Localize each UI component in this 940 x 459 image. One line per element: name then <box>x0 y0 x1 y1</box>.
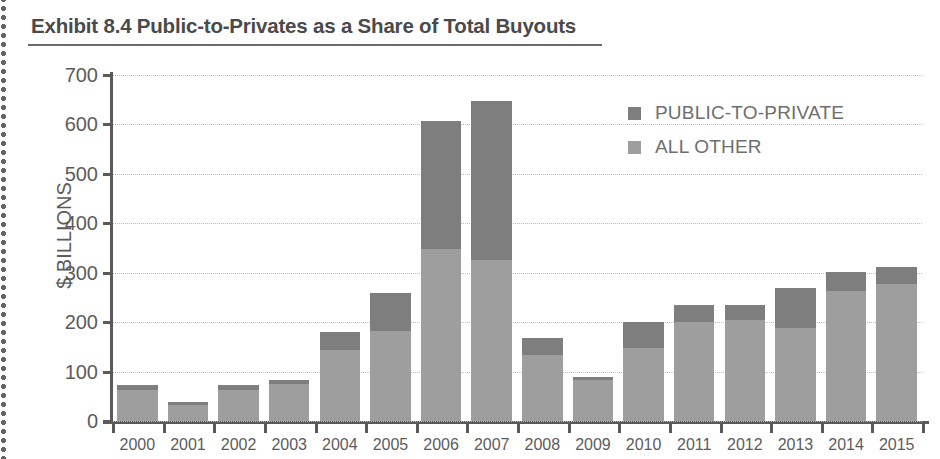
legend-label: PUBLIC-TO-PRIVATE <box>655 102 844 124</box>
bar-segment-public-to-private[interactable] <box>725 305 766 320</box>
y-tick-label: 100 <box>36 362 98 382</box>
bar-segment-all-other[interactable] <box>320 350 361 421</box>
bar-segment-all-other[interactable] <box>218 390 259 421</box>
y-tick-label: 200 <box>36 312 98 332</box>
y-tick-mark <box>103 222 113 225</box>
bar-segment-public-to-private[interactable] <box>522 338 563 354</box>
bar-segment-all-other[interactable] <box>775 328 816 421</box>
legend-entry[interactable]: ALL OTHER <box>628 130 898 164</box>
x-tick-mark <box>720 424 723 433</box>
bar-stack[interactable] <box>623 322 664 421</box>
x-tick-mark <box>315 424 318 433</box>
bar-stack[interactable] <box>725 305 766 421</box>
bar-stack[interactable] <box>471 101 512 421</box>
bar-segment-public-to-private[interactable] <box>826 272 867 291</box>
bar-segment-public-to-private[interactable] <box>573 377 614 381</box>
bar-stack[interactable] <box>876 267 917 421</box>
bar-stack[interactable] <box>826 272 867 421</box>
x-tick-mark <box>264 424 267 433</box>
y-tick-mark <box>103 371 113 374</box>
y-tick-label: 500 <box>36 164 98 184</box>
bar-stack[interactable] <box>218 385 259 421</box>
x-tick-mark <box>770 424 773 433</box>
title-underline <box>28 44 602 46</box>
bar-segment-all-other[interactable] <box>623 348 664 421</box>
legend-swatch-icon <box>628 141 641 154</box>
x-tick-mark <box>922 424 925 433</box>
bar-segment-public-to-private[interactable] <box>218 385 259 389</box>
x-tick-mark <box>618 424 621 433</box>
x-tick-mark <box>365 424 368 433</box>
y-tick-label: 0 <box>36 411 98 431</box>
bar-stack[interactable] <box>421 120 462 421</box>
gridline <box>112 421 922 422</box>
x-tick-mark <box>163 424 166 433</box>
bar-stack[interactable] <box>573 377 614 421</box>
bar-stack[interactable] <box>168 402 209 421</box>
bar-segment-public-to-private[interactable] <box>421 121 462 250</box>
x-tick-label: 2015 <box>867 437 927 453</box>
bar-stack[interactable] <box>674 305 715 421</box>
bar-stack[interactable] <box>320 332 361 421</box>
bar-stack[interactable] <box>370 293 411 422</box>
y-tick-label: 700 <box>36 65 98 85</box>
x-tick-mark <box>871 424 874 433</box>
x-tick-mark <box>669 424 672 433</box>
gridline <box>112 273 922 274</box>
bar-segment-all-other[interactable] <box>573 380 614 421</box>
gridline <box>112 75 922 76</box>
bar-segment-public-to-private[interactable] <box>370 293 411 332</box>
bar-segment-all-other[interactable] <box>876 284 917 421</box>
bar-segment-all-other[interactable] <box>522 355 563 421</box>
bar-segment-all-other[interactable] <box>471 260 512 421</box>
bar-segment-all-other[interactable] <box>370 331 411 421</box>
bar-segment-all-other[interactable] <box>421 249 462 421</box>
gridline <box>112 223 922 224</box>
bar-segment-public-to-private[interactable] <box>117 385 158 390</box>
legend-swatch-icon <box>628 107 641 120</box>
legend-label: ALL OTHER <box>655 136 762 158</box>
bar-segment-public-to-private[interactable] <box>876 267 917 284</box>
legend-entry[interactable]: PUBLIC-TO-PRIVATE <box>628 96 898 130</box>
y-tick-mark <box>103 74 113 77</box>
bar-segment-all-other[interactable] <box>826 291 867 421</box>
x-tick-mark <box>213 424 216 433</box>
y-tick-label: 400 <box>36 213 98 233</box>
bar-stack[interactable] <box>522 338 563 421</box>
y-tick-mark <box>103 272 113 275</box>
bar-stack[interactable] <box>117 385 158 421</box>
chart-legend: PUBLIC-TO-PRIVATEALL OTHER <box>628 96 898 164</box>
y-tick-mark <box>103 173 113 176</box>
x-tick-mark <box>416 424 419 433</box>
bar-segment-all-other[interactable] <box>725 320 766 421</box>
y-tick-mark <box>103 420 113 423</box>
y-tick-mark <box>103 123 113 126</box>
bar-segment-public-to-private[interactable] <box>674 305 715 322</box>
gridline <box>112 174 922 175</box>
x-tick-mark <box>466 424 469 433</box>
bar-segment-all-other[interactable] <box>117 390 158 421</box>
page-title: Exhibit 8.4 Public-to-Privates as a Shar… <box>31 14 631 38</box>
bar-segment-public-to-private[interactable] <box>775 288 816 329</box>
bar-segment-public-to-private[interactable] <box>320 332 361 350</box>
exhibit-figure: Exhibit 8.4 Public-to-Privates as a Shar… <box>0 0 940 459</box>
x-tick-mark <box>112 424 115 433</box>
bar-segment-all-other[interactable] <box>269 384 310 421</box>
bar-chart: $ BILLIONS 0100200300400500600700 200020… <box>0 52 940 459</box>
y-tick-label: 300 <box>36 263 98 283</box>
y-tick-mark <box>103 321 113 324</box>
bar-segment-public-to-private[interactable] <box>471 101 512 261</box>
bar-segment-all-other[interactable] <box>168 405 209 421</box>
x-tick-mark <box>568 424 571 433</box>
x-tick-mark <box>517 424 520 433</box>
bar-stack[interactable] <box>775 288 816 421</box>
bar-stack[interactable] <box>269 380 310 421</box>
x-tick-mark <box>821 424 824 433</box>
bar-segment-public-to-private[interactable] <box>623 322 664 348</box>
bar-segment-public-to-private[interactable] <box>269 380 310 384</box>
bar-segment-all-other[interactable] <box>674 322 715 421</box>
y-tick-label: 600 <box>36 114 98 134</box>
bar-segment-public-to-private[interactable] <box>168 402 209 405</box>
